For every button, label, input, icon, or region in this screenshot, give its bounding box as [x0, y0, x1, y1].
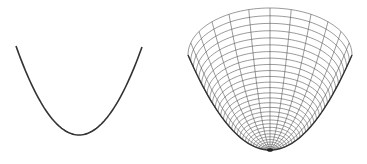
paraboloid-vertex: [267, 148, 273, 152]
paraboloid-meridian-lines: [188, 8, 352, 150]
silhouette-edge: [270, 55, 352, 150]
meridian-line: [270, 22, 328, 150]
parabola-curve: [16, 46, 142, 135]
meridian-line: [188, 55, 270, 150]
paraboloid-3d-plot: [188, 8, 352, 152]
figure-canvas: [0, 0, 367, 164]
figure-svg: [0, 0, 367, 164]
parabola-2d-plot: [16, 46, 142, 135]
silhouette-edge: [188, 55, 270, 150]
meridian-line: [270, 55, 352, 150]
meridian-line: [212, 22, 270, 150]
